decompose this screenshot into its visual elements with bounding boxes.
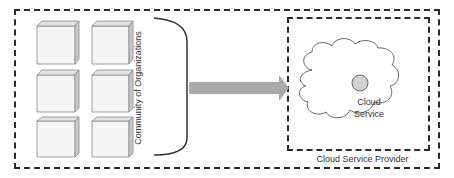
cloud-service-label-line2: Service [339, 108, 399, 120]
organization-cube [92, 117, 133, 157]
cloud-service-label: Cloud Service [339, 96, 399, 120]
cloud-service-label-line1: Cloud [339, 96, 399, 108]
provider-label: Cloud Service Provider [300, 154, 425, 164]
community-label: Community of Organizations [133, 13, 143, 163]
organization-cube [92, 21, 133, 64]
organization-cube [37, 21, 79, 64]
service-node-icon [352, 75, 368, 91]
organization-cube [37, 117, 79, 157]
diagram-graphics [0, 0, 454, 178]
organization-cube [37, 70, 79, 112]
organization-cube [92, 70, 133, 112]
arrow-icon [189, 75, 289, 101]
community-brace [154, 18, 187, 155]
